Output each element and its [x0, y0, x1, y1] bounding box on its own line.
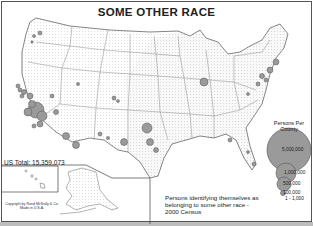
alaska: [66, 168, 118, 210]
map-title: SOME OTHER RACE: [0, 6, 313, 18]
map-caption: Persons identifying themselves as belong…: [165, 194, 260, 215]
legend-label-5000000: 5,000,000: [282, 147, 303, 152]
legend-label-1000000: 1,000,000: [284, 170, 305, 175]
us-map: [0, 0, 313, 226]
legend-label-1-1000: 1 - 1,000: [285, 196, 304, 201]
us-total: US Total: 15,359,073: [4, 159, 65, 166]
copyright: Copyright by Rand McNally & Co. Made in …: [4, 202, 60, 210]
legend-title: Persons Per County: [269, 120, 309, 132]
hawaii: [25, 170, 45, 188]
legend-label-500000: 500,000: [283, 181, 300, 186]
us-total-label: US Total:: [4, 159, 30, 166]
us-total-value: 15,359,073: [32, 159, 65, 166]
legend-label-100000: 100,000: [283, 190, 300, 195]
